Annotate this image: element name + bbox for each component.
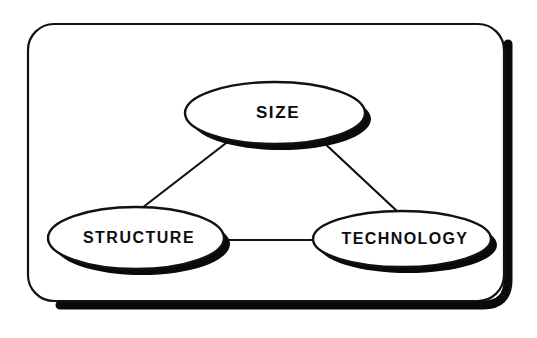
node-structure-label: STRUCTURE (83, 229, 195, 246)
node-technology[interactable]: TECHNOLOGY (313, 211, 497, 273)
node-size-label: SIZE (256, 103, 300, 122)
connector-size-technology (321, 140, 398, 212)
node-size[interactable]: SIZE (185, 82, 371, 150)
node-structure[interactable]: STRUCTURE (48, 207, 230, 275)
connector-size-structure (142, 140, 230, 208)
diagram-root: SIZE STRUCTURE TECHNOLOGY (0, 0, 537, 338)
node-technology-label: TECHNOLOGY (342, 230, 469, 247)
diagram-canvas: SIZE STRUCTURE TECHNOLOGY (0, 0, 537, 338)
